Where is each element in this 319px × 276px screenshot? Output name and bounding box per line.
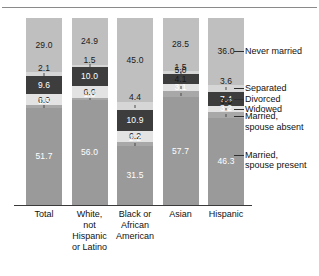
- segment-value-label: 2.2: [129, 134, 141, 143]
- segment-value-label: 57.7: [172, 147, 189, 156]
- bar-segment[interactable]: 10.9: [117, 110, 153, 130]
- segment-value-label: 5.0: [174, 66, 186, 75]
- bar-segment[interactable]: 57.7: [163, 97, 199, 205]
- leader-tick: [226, 114, 227, 117]
- bar-segment[interactable]: 31.5: [117, 146, 153, 205]
- segment-value-label: 1.0: [83, 90, 95, 99]
- legend-leader-line: [234, 155, 244, 156]
- leader-tick: [135, 105, 136, 108]
- legend-leader-line: [234, 51, 244, 52]
- bar-segment[interactable]: 10.0: [72, 67, 108, 86]
- bar-segment[interactable]: 56.0: [72, 100, 108, 205]
- segment-value-label: 2.1: [38, 64, 50, 73]
- segment-value-label: 31.5: [127, 171, 144, 180]
- segment-value-label: 45.0: [127, 56, 144, 65]
- bar-segment[interactable]: 51.7: [26, 108, 62, 205]
- segment-value-label: 3.6: [220, 77, 232, 86]
- x-axis-labels: TotalWhite, not Hispanic or LatinoBlack …: [0, 209, 319, 269]
- segment-value-label: 3.1: [174, 83, 186, 92]
- bar-column[interactable]: 24.91.510.06.61.056.0: [72, 18, 108, 205]
- legend-leader-line: [234, 88, 244, 89]
- segment-value-label: 4.4: [129, 93, 141, 102]
- legend-item-label[interactable]: Separated: [245, 83, 287, 94]
- stacked-bar-chart: 29.02.19.66.01.551.724.91.510.06.61.056.…: [0, 0, 319, 276]
- bar-segment[interactable]: 4.4: [117, 102, 153, 110]
- segment-value-label: 1.5: [38, 97, 50, 106]
- bar-segment[interactable]: 45.0: [117, 18, 153, 102]
- legend-item-label[interactable]: Married, spouse absent: [245, 111, 304, 132]
- top-rule-divider: [2, 7, 317, 8]
- legend-leader-line: [234, 99, 244, 100]
- segment-value-label: 24.9: [81, 37, 98, 46]
- legend-leader-line: [234, 116, 244, 117]
- segment-value-label: 51.7: [36, 152, 53, 161]
- leader-tick: [180, 93, 181, 96]
- bar-column[interactable]: 45.04.410.96.22.231.5: [117, 18, 153, 205]
- segment-value-label: 10.9: [127, 116, 144, 125]
- x-axis-line: [14, 205, 252, 206]
- segment-value-label: 28.5: [172, 40, 189, 49]
- legend-item-label[interactable]: Never married: [245, 46, 302, 57]
- legend-item-label[interactable]: Married, spouse present: [245, 150, 307, 171]
- segment-value-label: 56.0: [81, 148, 98, 157]
- bar-segment[interactable]: 9.6: [26, 76, 62, 94]
- segment-value-label: 29.0: [36, 41, 53, 50]
- bar-column[interactable]: 29.02.19.66.01.551.7: [26, 18, 62, 205]
- x-axis-tick-label: Hispanic: [195, 209, 257, 220]
- leader-tick: [135, 143, 136, 146]
- legend-callouts: Never marriedSeparatedDivorcedWidowedMar…: [232, 18, 319, 208]
- segment-value-label: 10.0: [81, 72, 98, 81]
- legend-leader-line: [234, 109, 244, 110]
- bar-column[interactable]: 28.51.55.04.13.157.7: [163, 18, 199, 205]
- legend-item-label[interactable]: Divorced: [245, 94, 281, 105]
- leader-tick: [226, 87, 227, 90]
- segment-value-label: 9.6: [38, 81, 50, 90]
- segment-value-label: 1.5: [83, 56, 95, 65]
- segment-value-label: 3.2: [220, 104, 232, 113]
